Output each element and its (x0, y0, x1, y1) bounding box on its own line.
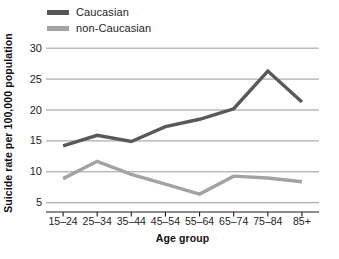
x-tick-label-4: 45–54 (151, 216, 180, 227)
plot-area (46, 42, 319, 212)
x-tick-label-2: 25–34 (83, 216, 112, 227)
series-lines (63, 71, 302, 194)
x-tick-label-5: 55–64 (185, 216, 214, 227)
y-tick-label-5: 5 (16, 197, 42, 208)
y-tick-label-20: 20 (16, 105, 42, 116)
legend-item-non-caucasian: non-Caucasian (47, 22, 151, 35)
legend-swatch-caucasian (47, 10, 69, 15)
y-tick-label-25: 25 (16, 74, 42, 85)
legend-swatch-non-caucasian (47, 26, 69, 31)
y-axis-tick-labels: 51015202530 (12, 42, 42, 212)
x-axis-tick-labels: 15–2425–3435–4445–5455–6465–7475–8485+ (46, 216, 319, 230)
x-tick-label-3: 35–44 (117, 216, 146, 227)
series-line-caucasian (63, 71, 302, 146)
y-tick-label-30: 30 (16, 43, 42, 54)
y-tick-label-10: 10 (16, 166, 42, 177)
series-line-non-caucasian (63, 161, 302, 194)
y-tick-label-15: 15 (16, 135, 42, 146)
legend-item-caucasian: Caucasian (47, 6, 151, 19)
x-tick-label-7: 75–84 (253, 216, 282, 227)
plot-svg (46, 42, 319, 212)
legend-label-non-caucasian: non-Caucasian (76, 23, 151, 34)
x-tick-label-8: 85+ (293, 216, 311, 227)
x-axis-title: Age group (46, 232, 319, 244)
x-tick-label-6: 65–74 (219, 216, 248, 227)
line-chart: Caucasian non-Caucasian Suicide rate per… (0, 0, 339, 259)
chart-legend: Caucasian non-Caucasian (47, 6, 151, 35)
x-tick-label-1: 15–24 (48, 216, 77, 227)
legend-label-caucasian: Caucasian (76, 7, 129, 18)
